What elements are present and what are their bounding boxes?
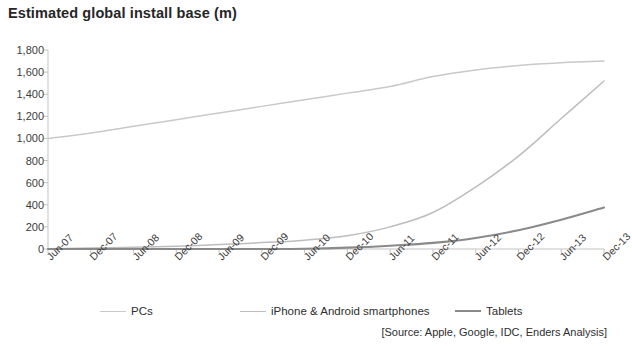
x-axis-tick-label: Dec-10 [343,230,375,262]
legend-line-icon [100,311,126,312]
x-axis-tick-label: Jun-13 [557,231,588,262]
legend-item-label: iPhone & Android smartphones [271,305,430,317]
x-axis-tick-label: Dec-07 [87,230,119,262]
x-axis-labels: Jun-07Dec-07Jun-08Dec-08Jun-09Dec-09Jun-… [0,0,615,300]
x-axis-tick-label: Jun-07 [44,231,75,262]
legend-line-icon [240,311,266,312]
legend-item-label: Tablets [486,305,522,317]
x-axis-tick-label: Jun-08 [130,231,161,262]
x-axis-tick-label: Dec-11 [429,231,461,263]
legend-item-3[interactable]: Tablets [455,302,522,320]
x-axis-tick-label: Dec-08 [172,230,204,262]
source-attribution: [Source: Apple, Google, IDC, Enders Anal… [381,326,607,338]
legend-line-icon [455,310,481,312]
plot-area: 1,8001,6001,4001,2001,0008006004002000 J… [0,0,615,300]
legend-item-2[interactable]: iPhone & Android smartphones [240,302,430,320]
chart-legend: PCsiPhone & Android smartphonesTablets [0,302,615,322]
x-axis-tick-label: Dec-12 [514,230,546,262]
x-axis-tick-label: Jun-11 [386,232,417,263]
legend-item-label: PCs [131,305,153,317]
x-axis-tick-label: Dec-13 [600,230,632,262]
x-axis-tick-label: Jun-09 [215,231,246,262]
legend-item-1[interactable]: PCs [100,302,153,320]
x-axis-tick-label: Jun-10 [301,231,332,262]
x-axis-tick-label: Jun-12 [472,231,503,262]
x-axis-tick-label: Dec-09 [258,230,290,262]
